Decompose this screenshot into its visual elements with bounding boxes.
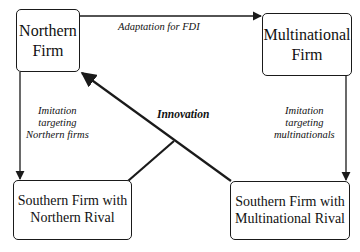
node-label: Multinational Rival	[235, 211, 345, 228]
innovation-branch	[128, 141, 174, 181]
node-label: Northern Rival	[30, 210, 114, 227]
innovation-arrow	[82, 73, 231, 181]
edge-label-text: targeting	[26, 117, 89, 129]
node-southern-northern-rival: Southern Firm with Northern Rival	[13, 180, 132, 240]
node-label: Northern	[19, 21, 77, 40]
edge-label-innovation: Innovation	[157, 108, 209, 121]
node-label: Southern Firm with	[18, 193, 128, 210]
edge-label-adaptation: Adaptation for FDI	[118, 21, 200, 33]
edge-label-text: multinationals	[274, 129, 335, 141]
node-multinational-firm: Multinational Firm	[262, 13, 352, 76]
edge-label-text: targeting	[274, 117, 335, 129]
edge-label-text: Northern firms	[26, 129, 89, 141]
node-label: Southern Firm with	[235, 194, 345, 211]
edge-label-text: Innovation	[157, 108, 209, 121]
edge-label-text: Imitation	[26, 105, 89, 117]
node-label: Firm	[32, 41, 63, 60]
edge-label-imitation-northern: Imitation targeting Northern firms	[26, 105, 89, 141]
edge-label-imitation-multinational: Imitation targeting multinationals	[274, 105, 335, 141]
node-label: Multinational	[263, 25, 350, 44]
node-southern-multinational-rival: Southern Firm with Multinational Rival	[230, 181, 350, 240]
node-northern-firm: Northern Firm	[16, 9, 80, 72]
edge-label-text: Adaptation for FDI	[118, 21, 200, 33]
edge-label-text: Imitation	[274, 105, 335, 117]
node-label: Firm	[291, 45, 322, 64]
